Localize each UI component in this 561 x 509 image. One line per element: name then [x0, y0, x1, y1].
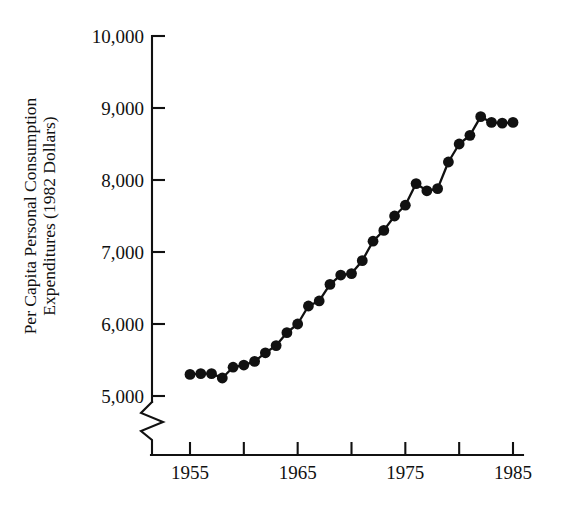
- y-axis-tick-labels: 5,0006,0007,0008,0009,00010,000: [92, 26, 144, 407]
- data-point: [195, 368, 206, 379]
- data-point: [335, 270, 346, 281]
- y-axis-group: 5,0006,0007,0008,0009,00010,000: [92, 26, 165, 407]
- data-point: [217, 373, 228, 384]
- data-point: [454, 139, 465, 150]
- y-tick-label: 8,000: [101, 170, 144, 191]
- data-point: [249, 356, 260, 367]
- data-point: [378, 225, 389, 236]
- data-point: [282, 327, 293, 338]
- data-point: [475, 111, 486, 122]
- data-point: [206, 368, 217, 379]
- chart-figure: 5,0006,0007,0008,0009,00010,000 19551965…: [0, 0, 561, 509]
- data-point: [314, 296, 325, 307]
- data-point: [260, 347, 271, 358]
- axis-break-group: [141, 402, 163, 455]
- y-tick-label: 5,000: [101, 386, 144, 407]
- data-series-group: [185, 111, 519, 383]
- data-point: [292, 319, 303, 330]
- data-point: [508, 117, 519, 128]
- x-tick-label: 1985: [494, 462, 532, 483]
- y-axis-ticks: [152, 36, 165, 396]
- series-line: [190, 117, 513, 378]
- data-point: [357, 255, 368, 266]
- x-axis-tick-labels: 1955196519751985: [171, 462, 532, 483]
- x-tick-label: 1975: [386, 462, 424, 483]
- x-axis-group: 1955196519751985: [151, 442, 532, 483]
- y-tick-label: 7,000: [101, 242, 144, 263]
- data-point: [325, 279, 336, 290]
- data-point: [432, 183, 443, 194]
- data-point: [185, 369, 196, 380]
- data-point: [465, 130, 476, 141]
- data-point: [411, 178, 422, 189]
- data-point: [271, 340, 282, 351]
- data-point: [389, 211, 400, 222]
- y-axis-break-zigzag-icon: [141, 402, 163, 455]
- data-point: [400, 200, 411, 211]
- data-point: [346, 268, 357, 279]
- data-point: [421, 185, 432, 196]
- x-tick-label: 1965: [279, 462, 317, 483]
- y-tick-label: 9,000: [101, 98, 144, 119]
- data-point: [368, 236, 379, 247]
- y-tick-label: 10,000: [92, 26, 144, 47]
- data-point: [486, 117, 497, 128]
- data-point: [303, 301, 314, 312]
- y-axis-title-group: Per Capita Personal Consumption Expendit…: [20, 97, 59, 334]
- y-axis-title-line-1: Per Capita Personal Consumption: [20, 97, 40, 334]
- y-axis-title-line-2: Expenditures (1982 Dollars): [39, 116, 59, 315]
- data-point: [443, 157, 454, 168]
- data-point: [238, 360, 249, 371]
- series-markers: [185, 111, 519, 383]
- x-axis-ticks: [190, 442, 513, 455]
- data-point: [228, 362, 239, 373]
- data-point: [497, 118, 508, 129]
- y-tick-label: 6,000: [101, 314, 144, 335]
- x-tick-label: 1955: [171, 462, 209, 483]
- chart-canvas: 5,0006,0007,0008,0009,00010,000 19551965…: [0, 0, 561, 509]
